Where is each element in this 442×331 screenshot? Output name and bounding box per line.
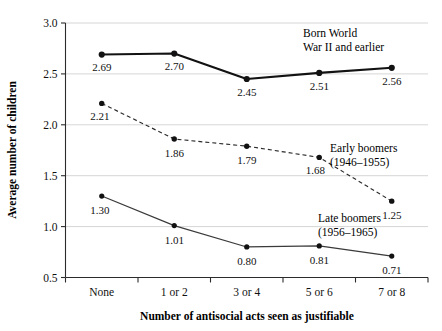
x-tick-label: 3 or 4 <box>233 286 260 298</box>
y-tick-label: 1.5 <box>43 170 58 182</box>
data-point-label: 1.86 <box>165 147 185 159</box>
data-point-marker <box>316 70 322 76</box>
y-tick-label: 1.0 <box>43 221 58 233</box>
series-annotation-label: (1956–1965) <box>318 226 378 239</box>
data-point-label: 2.70 <box>165 60 185 72</box>
data-point-marker <box>172 223 177 228</box>
x-tick-label: 1 or 2 <box>161 286 188 298</box>
series-annotation-label: Late boomers <box>318 212 381 224</box>
data-point-label: 2.56 <box>382 75 402 87</box>
data-point-label: 0.80 <box>237 255 257 267</box>
data-point-marker <box>172 136 177 141</box>
data-point-marker <box>317 243 322 248</box>
x-tick-label: 7 or 8 <box>378 286 405 298</box>
y-tick-labels: 0.51.01.52.02.53.0 <box>43 17 58 284</box>
series-annotation-label: Early boomers <box>330 142 398 155</box>
data-point-marker <box>244 244 249 249</box>
series-line <box>102 54 392 79</box>
y-tick-label: 0.5 <box>43 272 58 284</box>
x-axis-title: Number of antisocial acts seen as justif… <box>140 310 354 323</box>
data-point-marker <box>171 50 177 56</box>
data-point-label: 1.68 <box>306 164 326 176</box>
data-point-label: 0.81 <box>310 254 329 266</box>
y-tick-label: 2.0 <box>43 119 58 131</box>
data-point-label: 1.79 <box>237 154 257 166</box>
x-tick-labels: None1 or 23 or 45 or 67 or 8 <box>89 286 405 298</box>
series-annotation-label: Born World <box>303 27 357 39</box>
x-tick-label: 5 or 6 <box>306 286 333 298</box>
series-annotations: Born WorldWar II and earlierEarly boomer… <box>303 27 398 239</box>
data-point-marker <box>244 76 250 82</box>
data-point-marker <box>99 193 104 198</box>
x-tick-marks <box>66 278 429 283</box>
data-point-marker <box>99 51 105 57</box>
series-annotation-label: (1946–1955) <box>330 156 390 169</box>
data-point-label: 1.01 <box>165 234 184 246</box>
series-annotation-label: War II and earlier <box>303 41 384 53</box>
y-axis-title: Average number of children <box>6 81 19 219</box>
line-chart: 0.51.01.52.02.53.0 None1 or 23 or 45 or … <box>0 0 442 331</box>
data-point-marker <box>389 198 394 203</box>
data-point-label: 2.69 <box>92 61 112 73</box>
data-point-marker <box>99 101 104 106</box>
data-point-label: 1.30 <box>90 204 110 216</box>
data-point-marker <box>389 254 394 259</box>
y-tick-marks <box>61 23 66 278</box>
data-point-label: 2.21 <box>90 110 109 122</box>
data-point-marker <box>244 143 249 148</box>
data-point-label: 2.45 <box>237 86 257 98</box>
y-tick-label: 2.5 <box>43 68 58 80</box>
data-point-label: 1.25 <box>382 209 402 221</box>
data-point-marker <box>389 65 395 71</box>
data-point-label: 0.71 <box>382 264 401 276</box>
chart-container: 0.51.01.52.02.53.0 None1 or 23 or 45 or … <box>0 0 442 331</box>
y-tick-label: 3.0 <box>43 17 58 29</box>
x-tick-label: None <box>89 286 114 298</box>
data-point-marker <box>317 155 322 160</box>
data-point-label: 2.51 <box>310 80 329 92</box>
